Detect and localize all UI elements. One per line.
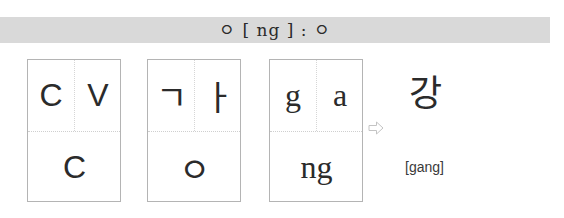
vowel-jamo: ㅏ	[195, 60, 241, 131]
result-syllable: 강	[409, 64, 442, 116]
result-romanization: [gang]	[405, 159, 444, 175]
initial-jamo: ㄱ	[148, 60, 194, 131]
romanization-box: g a ng	[269, 59, 363, 202]
syllable-structure-box: C V C	[27, 59, 121, 202]
hangul-jamo-box: ㄱ ㅏ ㅇ	[147, 59, 241, 202]
header-band: ㅇ [ ng ] : ㅇ	[0, 17, 550, 43]
vowel: V	[75, 60, 121, 131]
initial-consonant: C	[28, 60, 74, 131]
vowel-roman: a	[317, 60, 363, 131]
final-consonant: C	[28, 132, 121, 202]
initial-roman: g	[270, 60, 316, 131]
right-arrow-icon	[368, 121, 384, 135]
final-jamo: ㅇ	[148, 132, 241, 202]
final-roman: ng	[270, 132, 363, 202]
header-title: ㅇ [ ng ] : ㅇ	[0, 17, 550, 43]
